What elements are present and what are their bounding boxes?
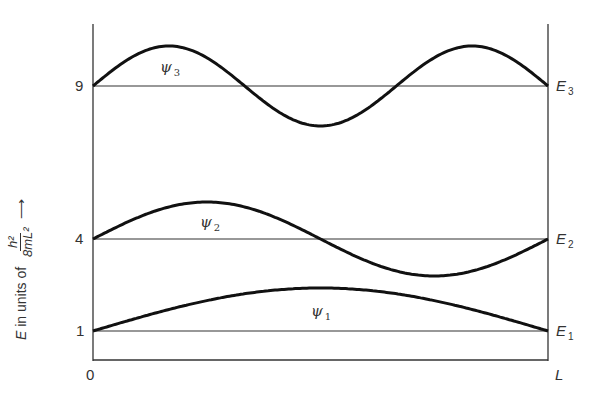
y-axis-label: E in units of h² 8mL² ⟶	[6, 199, 35, 340]
y-tick-1: 1	[76, 322, 84, 339]
energy-label-e1: E1	[556, 322, 574, 339]
energy-level-diagram	[0, 0, 592, 400]
y-tick-9: 9	[75, 77, 83, 94]
psi2-label: ψ2	[200, 213, 220, 231]
y-tick-4: 4	[75, 230, 83, 247]
psi1-label: ψ1	[311, 302, 331, 320]
unit-fraction: h² 8mL²	[6, 227, 35, 257]
energy-label-e2: E2	[556, 230, 574, 247]
x-end-label: L	[555, 366, 563, 383]
energy-label-e3: E3	[556, 77, 574, 94]
x-origin-label: 0	[86, 366, 94, 383]
psi3-label: ψ3	[160, 58, 180, 76]
arrow-icon: ⟶	[13, 199, 29, 219]
